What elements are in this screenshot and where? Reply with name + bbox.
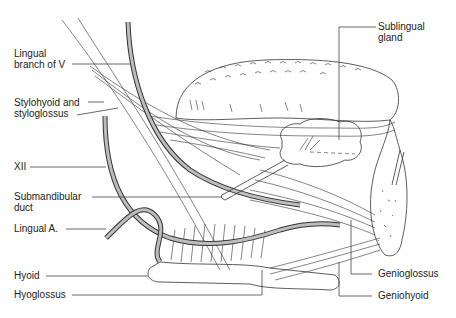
mandible xyxy=(371,120,407,256)
label-stylohyoid-styloglossus: Stylohyoid and styloglossus xyxy=(14,97,80,119)
hyoid-bone xyxy=(148,262,339,290)
tongue xyxy=(150,60,399,158)
label-geniohyoid: Geniohyoid xyxy=(378,290,429,301)
label-sublingual-gland: Sublingual gland xyxy=(378,21,425,43)
muscle-fibers xyxy=(171,170,380,280)
submandibular-duct-shape xyxy=(221,160,288,200)
label-lingual-branch-v: Lingual branch of V xyxy=(14,48,65,70)
lingual-nerve xyxy=(128,22,300,205)
label-xii: XII xyxy=(14,161,26,172)
lingual-artery xyxy=(106,210,161,262)
leader-lines xyxy=(30,27,376,296)
anatomy-figure: Lingual branch of V Stylohyoid and stylo… xyxy=(0,0,456,318)
sublingual-gland-shape xyxy=(280,119,361,167)
label-genioglossus: Genioglossus xyxy=(378,268,439,279)
label-submandibular-duct: Submandibular duct xyxy=(14,191,81,213)
label-lingual-a: Lingual A. xyxy=(14,223,58,234)
label-hyoglossus: Hyoglossus xyxy=(14,289,66,300)
label-hyoid: Hyoid xyxy=(14,270,40,281)
